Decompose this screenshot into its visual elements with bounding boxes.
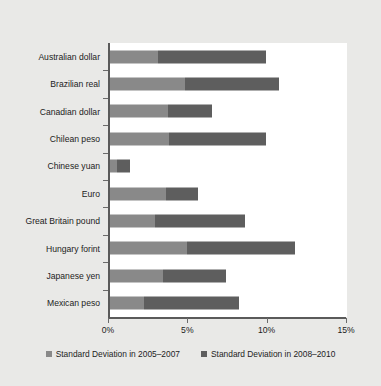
legend-label: Standard Deviation in 2005–2007 <box>56 349 180 359</box>
y-axis-line <box>108 43 110 318</box>
x-axis-label: 15% <box>337 325 354 335</box>
bar-segment <box>163 269 226 282</box>
bar-segment <box>109 297 144 310</box>
y-axis-tick <box>103 70 108 71</box>
bar-row <box>109 153 347 180</box>
bar-segment <box>109 105 168 118</box>
bar-segment <box>158 50 266 63</box>
stacked-bar <box>109 297 347 310</box>
y-axis-category-labels: Australian dollarBrazilian realCanadian … <box>0 43 100 317</box>
x-axis-tick <box>187 318 188 323</box>
legend-item: Standard Deviation in 2008–2010 <box>201 349 335 359</box>
y-axis-tick <box>103 262 108 263</box>
x-axis-tick-labels: 0%5%10%15% <box>0 325 381 339</box>
y-axis-label: Euro <box>0 189 100 199</box>
stacked-bar-chart: Australian dollarBrazilian realCanadian … <box>0 0 381 386</box>
y-axis-tick <box>103 98 108 99</box>
bar-segment <box>166 187 198 200</box>
y-axis-tick <box>103 153 108 154</box>
bar-row <box>109 98 347 125</box>
y-axis-label: Great Britain pound <box>0 216 100 226</box>
stacked-bar <box>109 132 347 145</box>
bar-segment <box>109 132 169 145</box>
y-axis-label: Japanese yen <box>0 271 100 281</box>
x-axis-label: 5% <box>181 325 193 335</box>
stacked-bar <box>109 187 347 200</box>
y-axis-tick <box>103 207 108 208</box>
x-axis-tick <box>346 318 347 323</box>
stacked-bar <box>109 242 347 255</box>
bar-row <box>109 43 347 70</box>
x-axis-label: 10% <box>258 325 275 335</box>
bar-segment <box>185 78 279 91</box>
y-axis-tick <box>103 235 108 236</box>
bar-row <box>109 262 347 289</box>
bar-segment <box>109 160 117 173</box>
bar-segment <box>109 242 187 255</box>
y-axis-label: Chilean peso <box>0 134 100 144</box>
stacked-bar <box>109 215 347 228</box>
stacked-bar <box>109 160 347 173</box>
y-axis-tick <box>103 290 108 291</box>
bar-segment <box>117 160 130 173</box>
x-axis-line <box>108 317 346 319</box>
bar-segment <box>109 50 158 63</box>
y-axis-label: Australian dollar <box>0 52 100 62</box>
bar-segment <box>168 105 212 118</box>
bar-row <box>109 207 347 234</box>
bar-segment <box>109 187 166 200</box>
y-axis-tick <box>103 180 108 181</box>
legend-swatch-icon <box>46 351 52 357</box>
bar-row <box>109 70 347 97</box>
x-axis-tick <box>267 318 268 323</box>
x-axis-label: 0% <box>102 325 114 335</box>
y-axis-label: Mexican peso <box>0 298 100 308</box>
bar-row <box>109 180 347 207</box>
bar-segment <box>155 215 245 228</box>
legend-item: Standard Deviation in 2005–2007 <box>46 349 180 359</box>
stacked-bar <box>109 269 347 282</box>
bar-row <box>109 290 347 317</box>
legend-swatch-icon <box>201 351 207 357</box>
x-axis-tick <box>108 318 109 323</box>
y-axis-label: Brazilian real <box>0 79 100 89</box>
y-axis-label: Hungary forint <box>0 244 100 254</box>
stacked-bar <box>109 50 347 63</box>
bar-segment <box>187 242 295 255</box>
bar-segment <box>169 132 266 145</box>
y-axis-label: Canadian dollar <box>0 107 100 117</box>
plot-area <box>109 43 347 317</box>
stacked-bar <box>109 78 347 91</box>
y-axis-label: Chinese yuan <box>0 161 100 171</box>
legend-label: Standard Deviation in 2008–2010 <box>211 349 335 359</box>
bar-segment <box>109 269 163 282</box>
bar-row <box>109 235 347 262</box>
stacked-bar <box>109 105 347 118</box>
bar-segment <box>144 297 239 310</box>
bar-segment <box>109 78 185 91</box>
bar-row <box>109 125 347 152</box>
y-axis-tick <box>103 125 108 126</box>
bar-segment <box>109 215 155 228</box>
chart-legend: Standard Deviation in 2005–2007Standard … <box>0 349 381 359</box>
